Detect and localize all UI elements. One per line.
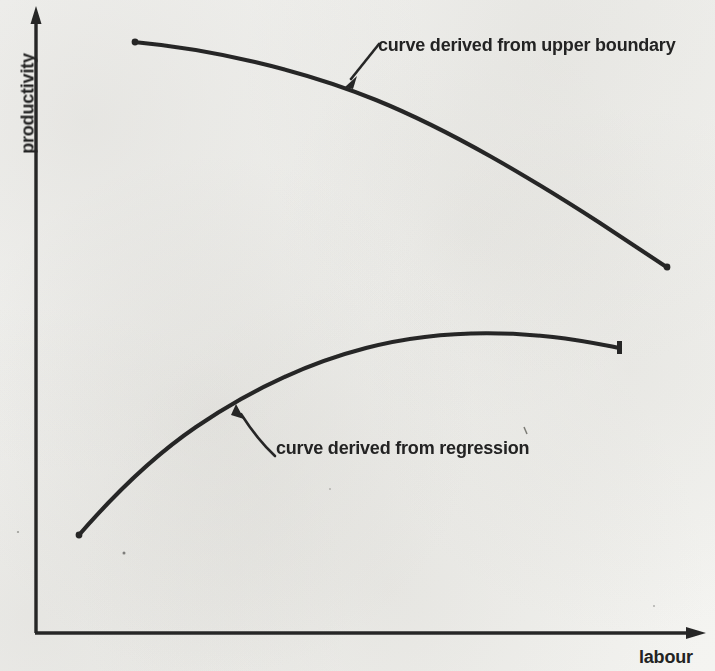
x-axis-arrowhead (686, 627, 706, 639)
y-axis-label: productivity (18, 29, 39, 179)
leader-arrow-regression-shaft (241, 414, 275, 456)
scan-speck (329, 488, 331, 490)
chart-axes (31, 6, 707, 639)
leader-arrow-upper-boundary (345, 44, 379, 89)
regression-curve-path (79, 333, 620, 535)
leader-arrow-regression (231, 404, 275, 456)
scan-speck (123, 552, 126, 555)
upper-boundary-curve-start-cap (132, 39, 139, 46)
annotation-label-upper-boundary: curve derived from upper boundary (378, 36, 675, 54)
upper-boundary-curve-end-cap (664, 264, 671, 271)
leader-arrow-regression-head (231, 404, 244, 419)
x-axis-label: labour (639, 647, 693, 668)
chart-ink-layer (0, 0, 715, 671)
series-regression-curve (76, 333, 622, 538)
scanned-chart-figure: curve derived from upper boundary curve … (0, 0, 715, 671)
regression-curve-end-cap (617, 341, 622, 354)
upper-boundary-curve-path (134, 42, 668, 268)
scan-speck (524, 427, 527, 434)
scan-speck (17, 531, 19, 533)
y-axis-arrowhead (31, 6, 42, 24)
leader-arrow-upper-boundary-shaft (351, 44, 379, 79)
regression-curve-start-cap (76, 532, 83, 539)
annotation-label-regression: curve derived from regression (276, 439, 529, 457)
scan-speck (653, 605, 655, 607)
series-upper-boundary-curve (132, 39, 671, 271)
